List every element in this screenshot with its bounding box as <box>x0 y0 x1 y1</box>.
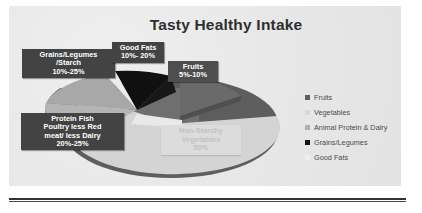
bottom-divider <box>9 198 406 202</box>
legend-item-animal-protein-dairy[interactable]: Animal Protein & Dairy <box>305 120 401 135</box>
legend-swatch-icon <box>305 140 310 145</box>
callout-fruits[interactable]: Fruits 5%-10% <box>168 61 218 82</box>
legend-label: Animal Protein & Dairy <box>314 123 387 132</box>
legend-label: Grains/Legumes <box>314 138 368 147</box>
chart-panel: Tasty Healthy Intake <box>9 6 401 186</box>
legend-swatch-icon <box>305 125 310 130</box>
slide-page: Tasty Healthy Intake <box>0 0 422 213</box>
legend-item-fruits[interactable]: Fruits <box>305 90 401 105</box>
legend-label: Good Fats <box>314 153 348 162</box>
legend-label: Fruits <box>314 93 332 102</box>
chart-legend: Fruits Vegetables Animal Protein & Dairy… <box>305 90 401 165</box>
divider-line-thin <box>9 201 406 202</box>
legend-item-grains-legumes[interactable]: Grains/Legumes <box>305 135 401 150</box>
legend-item-vegetables[interactable]: Vegetables <box>305 105 401 120</box>
legend-swatch-icon <box>305 110 310 115</box>
legend-label: Vegetables <box>314 108 350 117</box>
chart-title: Tasty Healthy Intake <box>9 16 401 34</box>
callout-good-fats[interactable]: Good Fats 10%- 20% <box>112 42 164 63</box>
legend-swatch-icon <box>305 155 310 160</box>
callout-vegetables-line-3: 50% <box>164 144 238 153</box>
divider-line-thick <box>9 198 406 200</box>
callout-fruits-line-2: 5%-10% <box>172 71 214 79</box>
callout-vegetables[interactable]: Non-Starchy Vegetables 50% <box>161 125 241 155</box>
legend-item-good-fats[interactable]: Good Fats <box>305 150 401 165</box>
callout-good-fats-line-2: 10%- 20% <box>116 52 160 60</box>
callout-protein[interactable]: Protein Fish Poultry less Red meat/ less… <box>21 113 124 150</box>
callout-protein-line-4: 20%-25% <box>25 140 120 148</box>
callout-grains-line-3: 10%-25% <box>26 68 111 76</box>
legend-swatch-icon <box>305 95 310 100</box>
callout-grains[interactable]: Grains/Legumes /Starch 10%-25% <box>22 49 115 78</box>
